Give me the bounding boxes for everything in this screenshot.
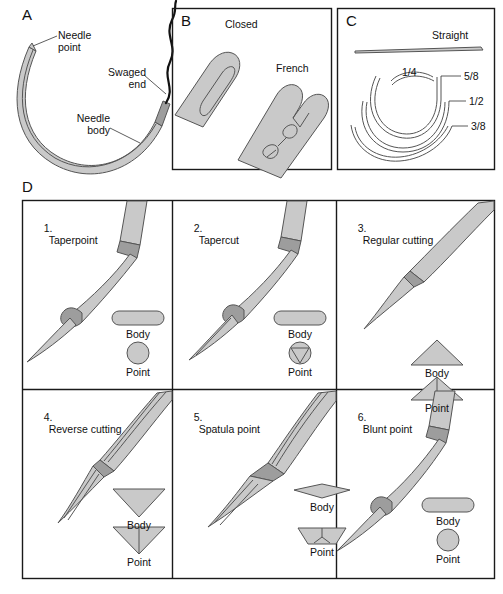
leader-needle-body [110, 128, 140, 143]
xsec-body-rounded-rect [422, 498, 474, 512]
label-five-eighths-circle: 5/8 [464, 70, 479, 82]
xsec-point-circle [437, 529, 459, 551]
cell-number-2: 2. [194, 222, 203, 234]
caption-body-5: Body [298, 501, 346, 513]
caption-body-2: Body [276, 328, 324, 340]
caption-body-1: Body [114, 328, 162, 340]
xsec-point-circle [127, 342, 149, 364]
xsec-body-hexagon [294, 484, 350, 498]
caption-point-5: Point [298, 546, 346, 558]
caption-point-1: Point [114, 366, 162, 378]
caption-point-6: Point [424, 553, 472, 565]
cell-name-3: Regular cutting [363, 234, 434, 246]
swaged-end-shape [155, 101, 170, 126]
xsec-point-circle [289, 342, 311, 364]
suture-thread [166, 1, 176, 103]
cell-title-4: 4. Reverse cutting [32, 399, 122, 447]
arc-five-eighths-inner [375, 77, 437, 134]
panel-letter-a: A [22, 6, 32, 23]
cell-title-5: 5. Spatula point [182, 399, 260, 447]
panel-letter-c: C [346, 12, 357, 29]
cell-number-1: 1. [44, 222, 53, 234]
cell-title-3: 3. Regular cutting [346, 210, 433, 258]
cell-name-2: Tapercut [199, 234, 239, 246]
straight-needle [355, 47, 483, 53]
caption-point-3: Point [413, 402, 461, 414]
panel-letter-b: B [181, 12, 191, 29]
caption-point-4: Point [115, 556, 163, 568]
needle-tip [189, 315, 238, 360]
label-needle-body: Needle body [40, 112, 110, 136]
caption-body-3: Body [413, 367, 461, 379]
label-swaged-end: Swaged end [66, 66, 146, 90]
cell-title-6: 6. Blunt point [346, 399, 412, 447]
caption-body-4: Body [115, 519, 163, 531]
needle-shaft-upper [120, 201, 147, 245]
label-quarter-circle: 1/4 [402, 66, 417, 78]
needle-tip [58, 466, 104, 523]
leader-swaged-end [144, 75, 166, 94]
caption-point-2: Point [276, 366, 324, 378]
needle-tip [364, 277, 414, 329]
cell-name-6: Blunt point [363, 423, 413, 435]
cell-name-5: Spatula point [199, 423, 260, 435]
label-three-eighths-circle: 3/8 [471, 120, 486, 132]
label-needle-point: Needle point [58, 29, 91, 53]
panel-c-artwork [351, 47, 483, 161]
cell-number-3: 3. [358, 222, 367, 234]
cell-number-4: 4. [44, 411, 53, 423]
label-half-circle: 1/2 [469, 95, 484, 107]
label-closed-eye: Closed [225, 18, 258, 30]
cell-title-1: 1. Taperpoint [32, 210, 98, 258]
xsec-body-triangle-up [411, 340, 463, 365]
needle-tip [27, 318, 76, 362]
needle-shaft-upper [281, 201, 307, 241]
xsec-body-triangle-down [113, 489, 165, 517]
caption-body-6: Body [424, 515, 472, 527]
leader-needle-point [33, 36, 57, 46]
cell-name-1: Taperpoint [49, 234, 98, 246]
arc-three-eighths-inner [355, 126, 448, 157]
label-french-eye: French [276, 62, 309, 74]
xsec-body-rounded-rect [112, 311, 164, 325]
label-straight: Straight [432, 29, 468, 41]
arc-five-eighths [370, 76, 441, 138]
closed-eye-needle [175, 52, 240, 127]
cell-number-5: 5. [194, 411, 203, 423]
panel-letter-d: D [22, 178, 33, 195]
xsec-body-rounded-rect [274, 311, 326, 325]
cell-title-2: 2. Tapercut [182, 210, 239, 258]
cell-number-6: 6. [358, 411, 367, 423]
cell-name-4: Reverse cutting [49, 423, 122, 435]
panel-c-frame [338, 9, 495, 170]
figure-surgical-needles: .nfill { fill:#c9c9c9; stroke:#555; stro… [0, 0, 503, 594]
